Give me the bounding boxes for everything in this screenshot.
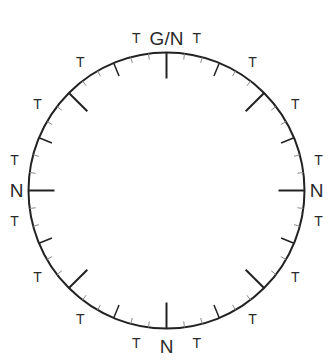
minor-tick bbox=[281, 257, 286, 260]
minor-tick bbox=[82, 81, 86, 86]
medium-tick bbox=[114, 63, 119, 76]
major-tick bbox=[246, 270, 264, 288]
minor-tick bbox=[271, 271, 276, 275]
t-label: T bbox=[10, 213, 19, 229]
tick-marks bbox=[29, 53, 305, 329]
minor-tick bbox=[201, 57, 203, 63]
minor-tick bbox=[271, 106, 276, 110]
t-label: T bbox=[314, 213, 323, 229]
minor-tick bbox=[82, 295, 86, 300]
minor-tick bbox=[98, 71, 101, 76]
medium-tick bbox=[39, 238, 52, 243]
t-label: T bbox=[132, 30, 141, 46]
t-label: T bbox=[291, 269, 300, 285]
t-label: T bbox=[314, 152, 323, 168]
minor-tick bbox=[47, 257, 52, 260]
medium-tick bbox=[39, 138, 52, 143]
major-tick bbox=[69, 93, 87, 111]
minor-tick bbox=[233, 71, 236, 76]
minor-tick bbox=[98, 305, 101, 310]
minor-tick bbox=[33, 225, 39, 227]
minor-tick bbox=[57, 106, 62, 110]
t-label: T bbox=[248, 311, 257, 327]
medium-tick bbox=[281, 238, 294, 243]
cardinal-label: N bbox=[160, 336, 174, 357]
t-label: T bbox=[291, 96, 300, 112]
minor-tick bbox=[294, 225, 300, 227]
t-label: T bbox=[248, 54, 257, 70]
major-tick bbox=[69, 270, 87, 288]
t-label: T bbox=[10, 152, 19, 168]
minor-tick bbox=[281, 122, 286, 125]
compass-dial: G/NNNNTTTTTTTTTTTTTTTT bbox=[0, 0, 332, 364]
minor-tick bbox=[131, 57, 133, 63]
t-label: T bbox=[76, 54, 85, 70]
minor-tick bbox=[247, 81, 251, 86]
minor-tick bbox=[47, 122, 52, 125]
medium-tick bbox=[214, 63, 219, 76]
minor-tick bbox=[201, 318, 203, 324]
minor-tick bbox=[247, 295, 251, 300]
minor-tick bbox=[294, 155, 300, 157]
cardinal-label: N bbox=[310, 180, 324, 201]
medium-tick bbox=[214, 305, 219, 318]
t-label: T bbox=[192, 335, 201, 351]
medium-tick bbox=[114, 305, 119, 318]
major-tick bbox=[246, 93, 264, 111]
t-label: T bbox=[76, 311, 85, 327]
t-label: T bbox=[192, 30, 201, 46]
minor-tick bbox=[57, 271, 62, 275]
cardinal-label: G/N bbox=[150, 28, 184, 49]
t-label: T bbox=[132, 335, 141, 351]
minor-tick bbox=[33, 155, 39, 157]
t-label: T bbox=[33, 96, 42, 112]
medium-tick bbox=[281, 138, 294, 143]
t-label: T bbox=[33, 269, 42, 285]
minor-tick bbox=[233, 305, 236, 310]
cardinal-label: N bbox=[10, 180, 24, 201]
minor-tick bbox=[131, 318, 133, 324]
